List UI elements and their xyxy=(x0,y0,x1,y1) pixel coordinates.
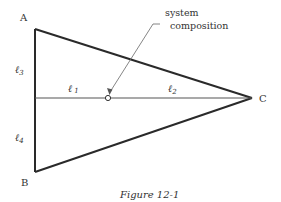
triangle-diagram: A B C ℓ3 ℓ4 ℓ1 ℓ2 system composition Fig… xyxy=(0,0,281,202)
side-bc xyxy=(35,98,252,172)
segment-label-l1: ℓ1 xyxy=(68,83,79,95)
vertex-label-b: B xyxy=(21,177,28,188)
figure-caption: Figure 12-1 xyxy=(119,189,179,200)
annotation-line-2: composition xyxy=(170,20,228,31)
vertex-label-a: A xyxy=(19,12,28,23)
vertex-label-c: C xyxy=(259,93,267,104)
annotation-line-1: system xyxy=(165,7,199,18)
segment-label-l2: ℓ2 xyxy=(168,83,177,96)
segment-label-l3: ℓ3 xyxy=(15,64,24,77)
segment-label-l4: ℓ4 xyxy=(15,132,24,145)
composition-point xyxy=(105,95,110,100)
annotation-leader xyxy=(110,24,160,92)
